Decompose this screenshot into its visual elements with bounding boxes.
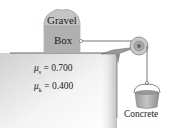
equals: = (44, 63, 49, 73)
physics-diagram: Gravel Box μs = 0.700 μk = 0.400 Concret… (0, 0, 172, 128)
bucket-label: Concrete (124, 110, 158, 120)
kinetic-friction-coefficient: μk = 0.400 (34, 82, 73, 93)
equals: = (44, 81, 49, 91)
mu-subscript: k (39, 87, 42, 93)
value: 0.700 (51, 63, 72, 73)
box-top-label: Gravel (47, 15, 77, 26)
box-label: Box (54, 35, 72, 46)
static-friction-coefficient: μs = 0.700 (34, 64, 73, 75)
mu-subscript: s (39, 69, 41, 75)
value: 0.400 (52, 81, 73, 91)
concrete-bucket (134, 81, 160, 108)
pulley (130, 37, 148, 55)
